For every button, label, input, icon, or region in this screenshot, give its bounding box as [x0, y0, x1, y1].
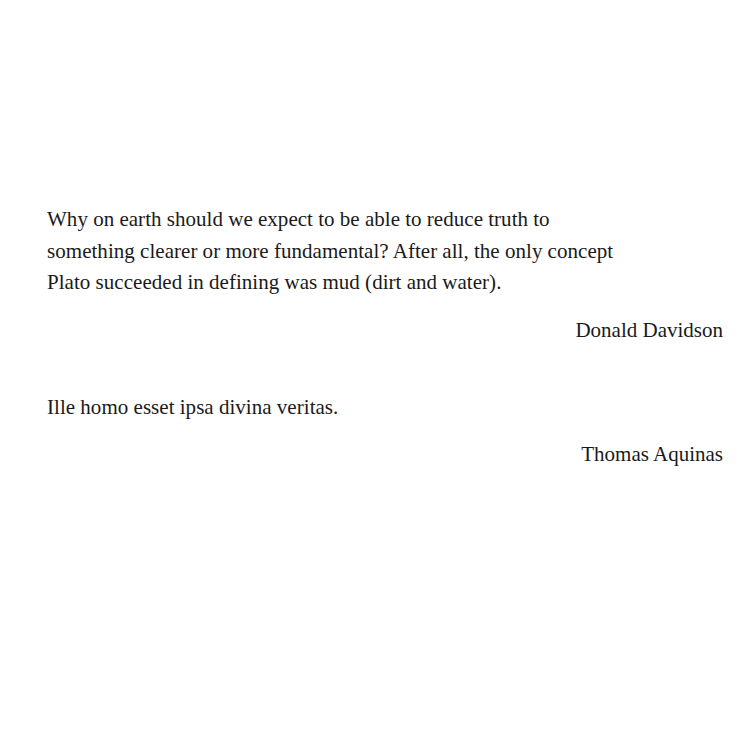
quote-text-aquinas: Ille homo esset ipsa divina veritas.: [47, 392, 723, 424]
epigraph-text-block: Why on earth should we expect to be able…: [47, 204, 723, 470]
epigraph-aquinas: Ille homo esset ipsa divina veritas. Tho…: [47, 392, 723, 470]
quote-line: Ille homo esset ipsa divina veritas.: [47, 392, 723, 424]
quote-line: Why on earth should we expect to be able…: [47, 204, 723, 236]
attribution-aquinas: Thomas Aquinas: [47, 439, 723, 471]
quote-line: Plato succeeded in defining was mud (dir…: [47, 267, 723, 299]
page: Why on earth should we expect to be able…: [0, 0, 738, 741]
quote-text-davidson: Why on earth should we expect to be able…: [47, 204, 723, 299]
quote-line: something clearer or more fundamental? A…: [47, 236, 723, 268]
epigraph-davidson: Why on earth should we expect to be able…: [47, 204, 723, 346]
attribution-davidson: Donald Davidson: [47, 315, 723, 347]
